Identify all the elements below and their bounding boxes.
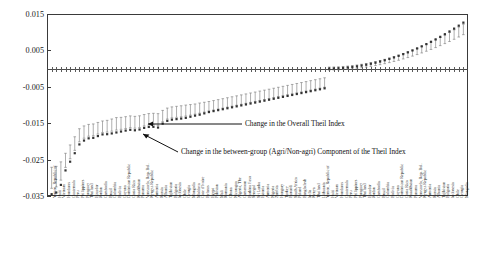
annotation-overall-label: Change in the Overall Theil Index (245, 119, 345, 128)
x-axis-category-labels: Yemen, Republic ofHaitiVietnamHondurasGu… (0, 0, 482, 257)
theil-index-chart: 0.0150.005-0.005-0.015-0.025-0.035 Yemen… (0, 0, 482, 257)
annotation-between-group-label: Change in the between-group (Agri/Non-ag… (181, 147, 406, 156)
x-axis-label: Mongolia (465, 182, 469, 198)
